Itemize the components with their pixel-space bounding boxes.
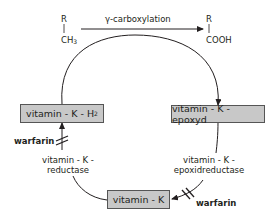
carboxylation-label: γ-carboxylation [105, 14, 171, 24]
node-vitamin-k-h2-subscript: 2 [94, 110, 98, 117]
enzyme-epoxidreductase-line1: vitamin - K - [172, 155, 246, 165]
substrate-moiety-text: CH [61, 35, 73, 45]
node-vitamin-k-h2: vitamin - K - H2 [20, 104, 104, 123]
enzyme-reductase-line2: reductase [38, 165, 98, 175]
epoxide-to-enzyme-line [216, 122, 218, 153]
substrate-r-group: R [61, 14, 67, 24]
enzyme-epoxidreductase: vitamin - K - epoxidreductase [172, 155, 246, 175]
product-r-group: R [206, 14, 212, 24]
inhibitor-warfarin-right: warfarin [196, 198, 236, 208]
enzyme-epoxidreductase-line2: epoxidreductase [172, 165, 246, 175]
enzyme-reductase-line1: vitamin - K - [38, 155, 98, 165]
node-vitamin-k-epoxyd: vitamin - K - epoxyd [171, 105, 265, 123]
inhibitor-warfarin-left: warfarin [14, 136, 54, 146]
product-moiety: COOH [206, 35, 232, 45]
enzyme-reductase: vitamin - K - reductase [38, 155, 98, 175]
node-vitamin-k-h2-label: vitamin - K - H [26, 108, 94, 119]
node-vitamin-k: vitamin - K [107, 190, 170, 209]
cycle-arc-top [62, 35, 219, 105]
vitamin-k-to-enzyme-line [73, 176, 107, 200]
substrate-subscript: 3 [73, 38, 77, 45]
substrate-moiety: CH3 [61, 35, 77, 47]
